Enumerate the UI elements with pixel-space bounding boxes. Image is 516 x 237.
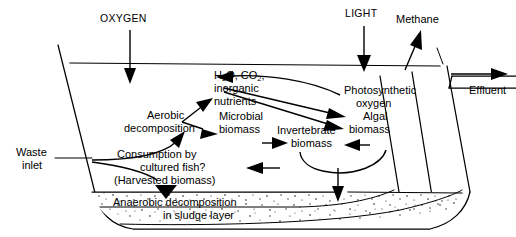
methane-output-flow: [405, 30, 422, 70]
consumption-line3: (Harvested biomass): [114, 174, 215, 186]
effluent-label: Effluent: [469, 84, 506, 96]
anaerobic-line1: Anaerobic decomposition: [113, 196, 237, 208]
arrow-microbial-to-invertebrate: [262, 137, 288, 149]
anaerobic-line2: in sludge layer: [163, 209, 234, 221]
invertebrate-line2: biomass: [291, 137, 332, 149]
photosynthetic-line2: oxygen: [356, 97, 391, 109]
chem-inorganic: inorganic: [214, 82, 259, 94]
arrow-invertebrate-curve: [300, 150, 386, 173]
aerobic-line1: Aerobic: [147, 109, 185, 121]
oxygen-label: OXYGEN: [100, 12, 147, 24]
arrow-micro-invert-head: [272, 137, 288, 149]
tank-right-outer-wall: [447, 66, 470, 192]
algal-line1: Algal: [363, 110, 387, 122]
chem-comma: ,: [261, 69, 264, 81]
aerobic-decomposition-label: Aerobic decomposition: [124, 109, 195, 134]
photosynthetic-oxygen-label: Photosynthetic oxygen: [344, 84, 417, 109]
consumption-line1: Consumption by: [117, 148, 197, 160]
aerobic-line2: decomposition: [124, 122, 195, 134]
chem-nutrients: nutrients: [214, 95, 257, 107]
methane-arrow-head: [410, 30, 422, 50]
arrow-algal-to-invertebrate: [344, 139, 370, 151]
microbial-line1: Microbial: [219, 110, 263, 122]
waste-inlet-label-line1: Waste: [16, 146, 47, 158]
water-chemistry-label: H2O, CO2, inorganic nutrients: [214, 69, 265, 107]
water-surface-line: [70, 63, 440, 66]
algal-line2: biomass: [349, 123, 390, 135]
light-label: LIGHT: [345, 7, 378, 19]
oxygen-arrow-head: [124, 68, 136, 84]
waste-inlet-label-line2: inlet: [22, 159, 42, 171]
arrow-to-consumption: [246, 162, 280, 174]
photosynthetic-line1: Photosynthetic: [344, 84, 417, 96]
methane-label: Methane: [396, 13, 439, 25]
chem-h: H: [214, 69, 222, 81]
arrow-to-consumption-head: [246, 162, 263, 174]
pond-diagram: OXYGEN LIGHT Methane Effluent Waste inle…: [0, 0, 516, 237]
diagram-canvas: OXYGEN LIGHT Methane Effluent Waste inle…: [0, 0, 516, 237]
chem-o-co: O, CO: [226, 69, 258, 81]
invertebrate-line1: Invertebrate: [277, 124, 336, 136]
tank-left-wall: [58, 45, 95, 193]
tank-right-lip: [437, 48, 443, 64]
arrow-algal-invert-head: [344, 139, 360, 151]
microbial-line2: biomass: [219, 123, 260, 135]
oxygen-input-flow: [124, 30, 136, 84]
arrow-nutrients-to-photo-head: [326, 108, 346, 119]
microbial-biomass-label: Microbial biomass: [219, 110, 263, 135]
light-arrow-head: [357, 55, 371, 72]
arrow-aerobic-to-microbial-head: [200, 129, 218, 139]
arrow-aerobic-to-nutrients-shaft: [182, 108, 200, 122]
invertebrate-biomass-label: Invertebrate biomass: [277, 124, 336, 149]
consumption-label: Consumption by cultured fish? (Harvested…: [114, 148, 215, 186]
consumption-line2: cultured fish?: [140, 161, 205, 173]
effluent-arrow-head: [491, 68, 508, 80]
algal-biomass-label: Algal biomass: [349, 110, 390, 135]
svg-text:H2O, CO2,: H2O, CO2,: [214, 69, 265, 83]
effluent-output-flow: [451, 68, 508, 80]
arrow-aerobic-to-nutrients: [182, 98, 213, 122]
